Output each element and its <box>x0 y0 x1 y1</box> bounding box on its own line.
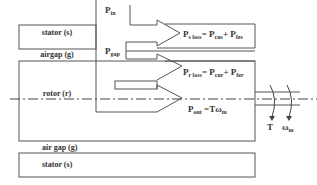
pr-loss-equation: Pr loss= Pcur+ Pfer <box>183 67 244 78</box>
ps-loss-equation: Ps loss= Pcus+ Pfes <box>183 29 243 40</box>
rotor-label: rotor (r) <box>43 89 72 98</box>
speed-label: ωm <box>282 122 294 133</box>
p-out-equation: Pout =Tωm <box>188 104 227 115</box>
torque-label: T <box>267 122 273 132</box>
induction-machine-power-flow-diagram: stator (s) airgap (g) rotor (r) air gap … <box>0 0 317 185</box>
p-in-label: Pin <box>105 5 116 16</box>
p-gap-label: Pgap <box>105 46 121 57</box>
stator-bottom-label: stator (s) <box>42 160 73 169</box>
stator-top-label: stator (s) <box>42 28 73 37</box>
airgap-top-label: airgap (g) <box>40 50 74 59</box>
rotation-arrows-icon <box>270 85 292 117</box>
airgap-bottom-label: air gap (g) <box>42 143 78 152</box>
